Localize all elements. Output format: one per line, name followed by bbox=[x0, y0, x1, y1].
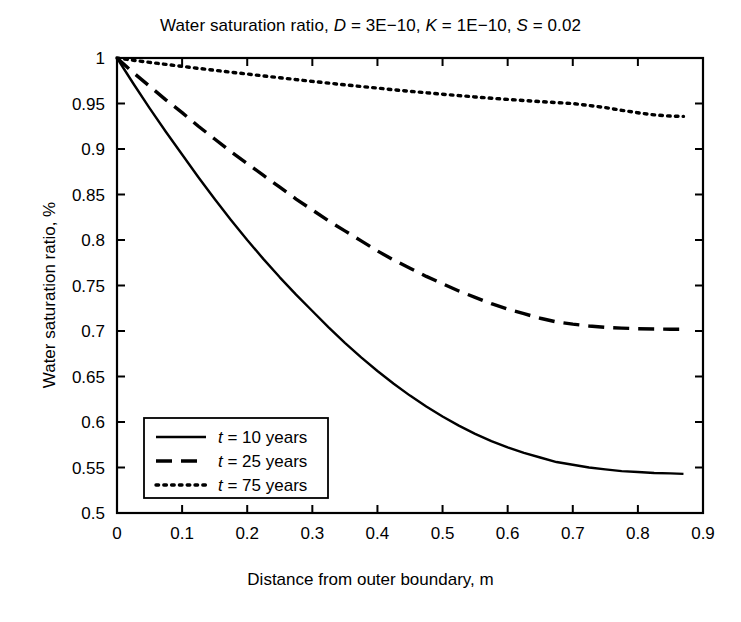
series-line-dashed bbox=[117, 58, 683, 329]
legend-value-text: = 10 years bbox=[223, 428, 308, 447]
legend-value-text: = 25 years bbox=[223, 452, 308, 471]
x-tick-label: 0.9 bbox=[691, 524, 715, 543]
figure-container: Water saturation ratio, D = 3E−10, K = 1… bbox=[0, 0, 741, 622]
plot-area: 0.50.550.60.650.70.750.80.850.90.95100.1… bbox=[0, 0, 741, 622]
x-tick-label: 0.4 bbox=[366, 524, 390, 543]
x-tick-label: 0 bbox=[112, 524, 121, 543]
y-tick-label: 0.75 bbox=[72, 277, 105, 296]
y-tick-label: 0.85 bbox=[72, 186, 105, 205]
y-tick-label: 1 bbox=[96, 49, 105, 68]
y-tick-label: 0.95 bbox=[72, 95, 105, 114]
x-axis-label-wrapper: Distance from outer boundary, m bbox=[0, 570, 741, 590]
legend-item-label[interactable]: t = 10 years bbox=[218, 428, 307, 447]
y-tick-label: 0.9 bbox=[81, 140, 105, 159]
legend-item-label[interactable]: t = 75 years bbox=[218, 476, 307, 495]
y-tick-label: 0.7 bbox=[81, 322, 105, 341]
y-tick-label: 0.5 bbox=[81, 504, 105, 523]
y-tick-label: 0.55 bbox=[72, 459, 105, 478]
legend-value-text: = 75 years bbox=[223, 476, 308, 495]
y-tick-label: 0.65 bbox=[72, 368, 105, 387]
x-tick-label: 0.1 bbox=[170, 524, 194, 543]
y-tick-label: 0.8 bbox=[81, 231, 105, 250]
x-tick-label: 0.2 bbox=[235, 524, 259, 543]
series-line-solid bbox=[117, 58, 683, 474]
x-axis-label: Distance from outer boundary, m bbox=[247, 570, 493, 589]
x-tick-label: 0.6 bbox=[496, 524, 520, 543]
x-tick-label: 0.7 bbox=[561, 524, 585, 543]
y-tick-label: 0.6 bbox=[81, 413, 105, 432]
series-line-dotted bbox=[117, 58, 683, 116]
x-tick-label: 0.5 bbox=[431, 524, 455, 543]
x-tick-label: 0.8 bbox=[626, 524, 650, 543]
x-tick-label: 0.3 bbox=[301, 524, 325, 543]
legend-item-label[interactable]: t = 25 years bbox=[218, 452, 307, 471]
